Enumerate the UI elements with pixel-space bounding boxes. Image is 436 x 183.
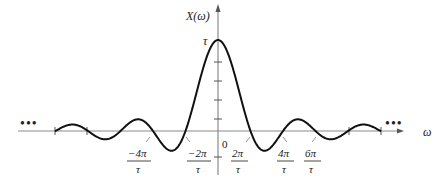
tick-label-6pi: 6π τ (304, 147, 321, 175)
tick-label-neg2pi: −2π τ (187, 147, 211, 175)
tick-label-4pi: 4π τ (277, 147, 294, 175)
label-leaders (146, 137, 316, 142)
tick-label-neg4pi: −4π τ (127, 147, 151, 175)
peak-label: τ (203, 34, 208, 48)
x-omega-axis-arrow-icon (216, 4, 221, 12)
svg-text:τ: τ (196, 163, 201, 175)
svg-text:τ: τ (282, 163, 287, 175)
ellipsis-left: ••• (20, 116, 38, 131)
x-axis-label: ω (423, 125, 431, 139)
svg-text:6π: 6π (305, 147, 317, 159)
ellipsis-right: ••• (385, 116, 403, 131)
origin-label: 0 (222, 138, 228, 150)
svg-text:τ: τ (236, 163, 241, 175)
svg-text:τ: τ (136, 163, 141, 175)
y-axis-label: X(ω) (185, 9, 210, 23)
tick-label-2pi: 2π τ (231, 147, 248, 175)
svg-text:−4π: −4π (128, 147, 147, 159)
sinc-plot: X(ω) τ 0 ω ••• ••• −4π τ −2π τ 2π τ 4π τ… (0, 0, 436, 183)
svg-text:4π: 4π (278, 147, 290, 159)
svg-text:−2π: −2π (188, 147, 207, 159)
svg-text:τ: τ (309, 163, 314, 175)
svg-text:2π: 2π (232, 147, 244, 159)
